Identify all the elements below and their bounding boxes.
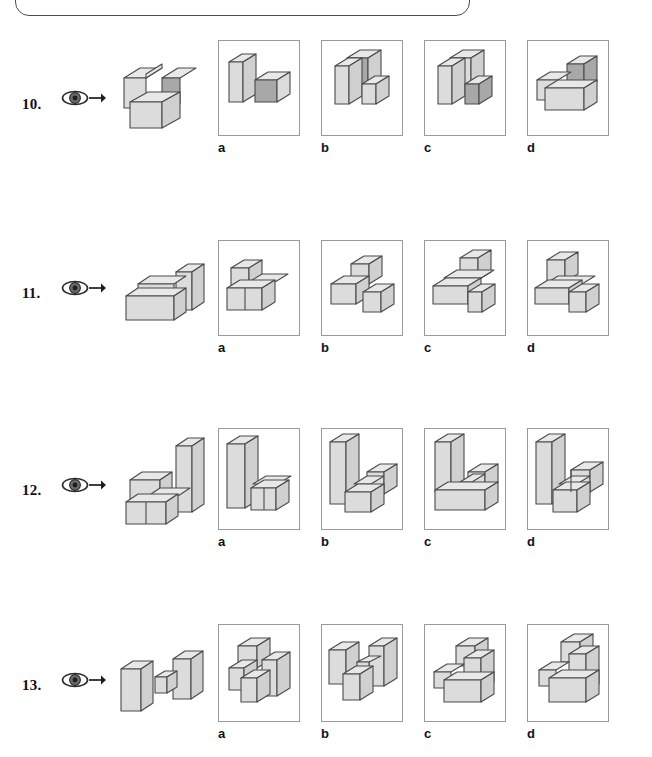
eye-icon — [63, 479, 88, 492]
partial-content-box-above — [15, 0, 470, 16]
viewpoint-indicator — [62, 670, 106, 690]
viewpoint-indicator — [62, 475, 106, 495]
eye-icon — [63, 674, 88, 687]
question-number: 12. — [22, 482, 41, 499]
question-number: 13. — [22, 677, 41, 694]
prompt-figure-13 — [115, 645, 210, 725]
prompt-figure-12 — [118, 432, 208, 532]
eye-icon — [63, 282, 88, 295]
arrow-right-icon — [89, 676, 106, 685]
prompt-figure-11 — [118, 252, 208, 332]
arrow-right-icon — [89, 94, 106, 103]
question-number: 11. — [22, 285, 41, 302]
prompt-figure-10 — [118, 52, 202, 136]
viewpoint-indicator — [62, 278, 106, 298]
viewpoint-indicator — [62, 88, 106, 108]
arrow-right-icon — [89, 481, 106, 490]
question-number: 10. — [22, 96, 41, 113]
arrow-right-icon — [89, 284, 106, 293]
eye-icon — [63, 92, 88, 105]
